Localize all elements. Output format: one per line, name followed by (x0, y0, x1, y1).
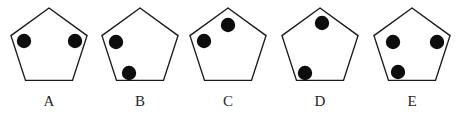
dot-a-upper-left-dot (17, 34, 31, 48)
pentagon-figure-b[interactable]: B (102, 8, 178, 109)
dot-b-lower-left-dot (122, 66, 136, 80)
pentagon-figure-d[interactable]: D (282, 8, 358, 109)
figure-label-c: C (223, 93, 233, 109)
pentagon-figure-c[interactable]: C (190, 8, 266, 109)
pentagon-figure-panel: ABCDE (0, 0, 462, 118)
pentagon-figure-a[interactable]: A (11, 8, 87, 109)
dot-b-upper-left-dot (109, 35, 123, 49)
dot-e-upper-left-dot (386, 35, 400, 49)
dot-c-top-apex-dot (221, 18, 235, 32)
pentagon-figure-e[interactable]: E (374, 8, 450, 109)
pentagon-figure-svg: ABCDE (0, 0, 462, 118)
dot-c-upper-left-dot (197, 34, 211, 48)
dot-e-upper-right-dot (430, 35, 444, 49)
dot-d-top-apex-dot (315, 16, 329, 30)
dot-d-lower-left-dot (298, 66, 312, 80)
figure-label-e: E (407, 93, 416, 109)
dot-a-upper-right-dot (68, 34, 82, 48)
figure-label-a: A (44, 93, 55, 109)
dot-e-lower-left-dot (391, 65, 405, 79)
figure-label-b: B (135, 93, 145, 109)
figure-label-d: D (315, 93, 326, 109)
